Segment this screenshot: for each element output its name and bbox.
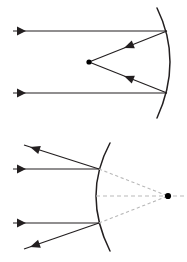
incident-ray-lower-arrow-icon — [17, 219, 26, 228]
mirror-ray-diagram-figure — [0, 0, 187, 262]
reflected-ray-upper-arrow-icon — [124, 40, 135, 48]
incident-ray-upper-arrow-icon — [17, 165, 26, 174]
convex-virtual-focal-point-dot — [165, 193, 171, 199]
reflected-ray-lower-arrow-icon — [30, 240, 41, 248]
ray-diagram-canvas — [0, 0, 187, 262]
incident-ray-upper-arrow-icon — [17, 27, 26, 36]
concave-focal-point-dot — [86, 59, 91, 64]
virtual-ray-lower-line — [99, 196, 168, 223]
convex-mirror-panel — [13, 143, 187, 251]
concave-mirror-panel — [13, 8, 170, 118]
incident-ray-lower-arrow-icon — [17, 89, 26, 98]
reflected-ray-upper-arrow-icon — [30, 146, 41, 154]
concave-mirror-arc — [157, 8, 170, 118]
reflected-ray-lower-arrow-icon — [124, 76, 135, 84]
convex-mirror-arc — [96, 143, 110, 251]
virtual-ray-upper-line — [99, 169, 168, 196]
